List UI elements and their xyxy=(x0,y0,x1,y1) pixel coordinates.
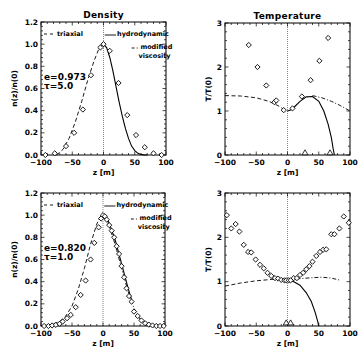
x-axis-label: z [m] xyxy=(277,168,299,177)
legend-label-viscosity: viscosity xyxy=(138,223,171,231)
y-axis-label: n(z)/n(0) xyxy=(10,241,19,278)
diamond-marker xyxy=(117,251,122,256)
diamond-marker xyxy=(129,299,134,304)
diamond-marker xyxy=(161,323,166,328)
diamond-marker xyxy=(326,35,331,40)
triaxial-curve xyxy=(41,215,103,326)
hydrodynamic-curve xyxy=(288,97,335,156)
diamond-marker xyxy=(80,107,85,112)
x-tick-label: −50 xyxy=(64,329,81,338)
density-bottom-panel: −100−500501000.00.20.40.60.81.01.2z [m]n… xyxy=(10,189,173,349)
diamond-marker xyxy=(142,145,147,150)
diamond-marker xyxy=(96,225,101,230)
x-tick-label: −50 xyxy=(64,158,81,167)
x-tick-label: 100 xyxy=(342,158,358,167)
y-tick-label: 0.6 xyxy=(25,255,38,264)
triangle-marker xyxy=(288,320,294,325)
legend-label-hydrodynamic: hydrodynamic xyxy=(116,201,168,209)
triangle-marker xyxy=(327,150,333,155)
x-tick-label: 50 xyxy=(314,329,324,338)
x-tick-label: 0 xyxy=(285,329,290,338)
param-tau: τ=1.0 xyxy=(44,252,73,262)
hydrodynamic-curve xyxy=(104,44,148,155)
x-tick-label: 0 xyxy=(285,158,290,167)
diamond-marker xyxy=(114,244,119,249)
y-tick-label: 1.0 xyxy=(25,40,38,49)
diamond-marker xyxy=(229,226,234,231)
temperature-bottom-panel: −100−500501000123z [m]T/T(0) xyxy=(204,189,358,349)
diamond-marker xyxy=(92,240,97,245)
diamond-marker xyxy=(246,42,251,47)
x-tick-label: 100 xyxy=(158,158,174,167)
x-tick-label: 0 xyxy=(101,158,106,167)
diamond-marker xyxy=(116,80,121,85)
x-tick-label: 50 xyxy=(314,158,324,167)
hydrodynamic-curve xyxy=(288,280,319,326)
triaxial-curve xyxy=(57,44,104,155)
y-tick-label: 0.4 xyxy=(25,277,38,286)
y-tick-label: 2 xyxy=(217,63,222,72)
diamond-marker xyxy=(308,78,313,83)
x-axis-label: z [m] xyxy=(93,168,115,177)
legend-label-viscosity: viscosity xyxy=(139,52,172,60)
diamond-marker xyxy=(310,259,315,264)
diamond-marker xyxy=(73,305,78,310)
y-tick-label: 0.6 xyxy=(25,84,38,93)
x-axis-label: z [m] xyxy=(92,339,114,348)
figure: −100−500501000.00.20.40.60.81.01.2Densit… xyxy=(0,0,364,357)
legend-label-triaxial: triaxial xyxy=(57,201,83,209)
y-tick-label: 1.0 xyxy=(25,211,38,220)
y-tick-label: 0 xyxy=(217,322,222,331)
y-tick-label: 2 xyxy=(217,233,222,242)
y-tick-label: 0.4 xyxy=(25,106,38,115)
y-tick-label: 0.8 xyxy=(25,62,38,71)
y-axis-label: T/T(0) xyxy=(204,76,213,101)
triaxial-curve xyxy=(225,96,288,111)
diamond-marker xyxy=(341,214,346,219)
temperature-top-panel: −100−500501000123Temperaturez [m]T/T(0) xyxy=(204,11,358,177)
x-axis-label: z [m] xyxy=(277,339,299,348)
diamond-marker xyxy=(119,264,124,269)
y-tick-label: 3 xyxy=(217,189,222,198)
diamond-marker xyxy=(314,253,319,258)
x-tick-label: 100 xyxy=(157,329,173,338)
diamond-marker xyxy=(317,58,322,63)
y-tick-label: 1.2 xyxy=(25,18,38,27)
legend-label-modified: modified xyxy=(140,214,172,222)
diamond-marker xyxy=(257,262,262,267)
diamond-marker xyxy=(237,229,242,234)
x-tick-label: 100 xyxy=(342,329,358,338)
y-tick-label: 0.2 xyxy=(25,299,38,308)
y-tick-label: 0.0 xyxy=(25,322,38,331)
diamond-marker xyxy=(112,235,117,240)
x-tick-label: −50 xyxy=(248,329,265,338)
diamond-marker xyxy=(346,220,351,225)
diamond-marker xyxy=(261,266,266,271)
legend-label-hydrodynamic: hydrodynamic xyxy=(117,30,169,38)
y-tick-label: 3 xyxy=(217,19,222,28)
diamond-marker xyxy=(241,242,246,247)
diamond-marker xyxy=(255,64,260,69)
legend-label-modified: modified xyxy=(140,43,172,51)
param-tau: τ=5.0 xyxy=(44,81,73,91)
triangle-marker xyxy=(302,150,308,155)
diamond-marker xyxy=(125,113,130,118)
y-tick-label: 1 xyxy=(217,107,222,116)
y-axis-label: n(z)/n(0) xyxy=(10,70,19,107)
x-tick-label: 50 xyxy=(129,329,139,338)
y-tick-label: 1 xyxy=(217,277,222,286)
diamond-marker xyxy=(68,312,73,317)
y-axis-label: T/T(0) xyxy=(204,247,213,272)
x-tick-label: −50 xyxy=(248,158,265,167)
y-tick-label: 0.0 xyxy=(25,151,38,160)
x-tick-label: 50 xyxy=(130,158,140,167)
chart-title: Density xyxy=(83,10,124,20)
modified-viscosity-curve xyxy=(313,96,351,111)
density-top-panel: −100−500501000.00.20.40.60.81.01.2Densit… xyxy=(10,10,174,177)
diamond-marker xyxy=(133,132,138,137)
diamond-marker xyxy=(131,309,136,314)
y-tick-label: 0.8 xyxy=(25,233,38,242)
diamond-marker xyxy=(233,221,238,226)
y-tick-label: 0.2 xyxy=(25,128,38,137)
diamond-marker xyxy=(264,83,269,88)
